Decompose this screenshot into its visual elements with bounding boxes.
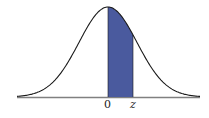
shaded-area — [108, 7, 133, 97]
z-label: z — [130, 99, 136, 110]
zero-label: 0 — [104, 99, 111, 110]
